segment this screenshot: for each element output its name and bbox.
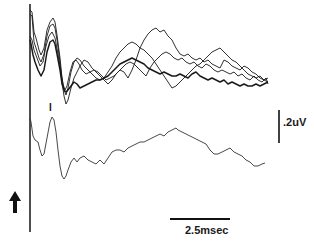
amplitude-scale-label: .2uV	[283, 117, 306, 128]
upper-trace-2	[30, 14, 268, 104]
abr-waveform-figure	[0, 0, 314, 242]
lower-trace	[30, 117, 265, 179]
upper-traces	[30, 10, 268, 104]
upper-trace-4	[30, 32, 268, 90]
peak-label-wave-i: I	[49, 102, 52, 113]
up-arrow-icon	[9, 191, 21, 213]
time-scale-label: 2.5msec	[185, 225, 228, 236]
